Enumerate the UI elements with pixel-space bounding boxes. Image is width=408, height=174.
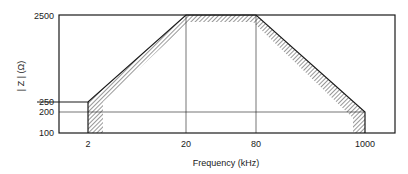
y-tick-2500: 2500 (34, 11, 54, 21)
y-tick-200: 200 (39, 107, 54, 117)
x-tick-20: 20 (181, 139, 191, 149)
y-axis-label: | Z | (Ω) (16, 61, 26, 91)
x-axis-label: Frequency (kHz) (193, 158, 260, 168)
y-tick-250: 250 (39, 97, 54, 107)
x-tick-80: 80 (251, 139, 261, 149)
plot-frame (59, 15, 395, 133)
hatched-tolerance-region (88, 15, 365, 133)
impedance-chart: 2500 250 200 100 2 20 80 1000 Frequency … (0, 0, 408, 174)
x-tick-1000: 1000 (355, 139, 375, 149)
x-tick-2: 2 (85, 139, 90, 149)
y-tick-100: 100 (39, 128, 54, 138)
